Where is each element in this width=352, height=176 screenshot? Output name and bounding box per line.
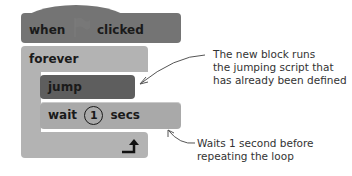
jump-annotation-line1: The new block runs xyxy=(213,48,347,61)
wait-annotation-line2: repeating the loop xyxy=(197,150,314,163)
wait-annotation: Waits 1 second before repeating the loop xyxy=(197,137,314,163)
wait-annotation-line1: Waits 1 second before xyxy=(197,137,314,150)
jump-annotation-line3: has already been defined xyxy=(213,74,347,87)
jump-annotation: The new block runs the jumping script th… xyxy=(213,48,347,87)
jump-annotation-line2: the jumping script that xyxy=(213,61,347,74)
